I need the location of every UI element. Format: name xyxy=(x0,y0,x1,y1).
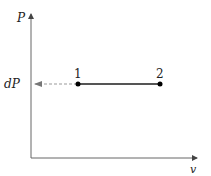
dp-label: dP xyxy=(4,77,21,91)
pv-diagram: P v dP 1 2 xyxy=(0,0,211,176)
point-2-label: 2 xyxy=(156,67,164,81)
point-1-label: 1 xyxy=(74,67,82,81)
point-1 xyxy=(76,82,81,87)
x-axis-label: v xyxy=(190,163,197,176)
point-2 xyxy=(158,82,163,87)
y-axis-label: P xyxy=(16,11,26,25)
